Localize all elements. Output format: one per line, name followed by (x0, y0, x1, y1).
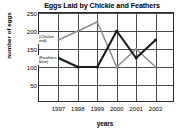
y-tick-label: 50 (30, 82, 37, 89)
data-point-chickie (96, 21, 98, 23)
data-point-chickie (77, 30, 79, 32)
annot-chickie-line2: red) (39, 39, 54, 44)
x-tick-label: 2001 (129, 105, 143, 112)
data-point-feathers (76, 66, 79, 69)
data-point-feathers (135, 57, 138, 60)
series-line-chickie (58, 22, 155, 67)
data-point-chickie (154, 66, 156, 68)
y-tick-label: 250 (27, 10, 37, 17)
chart-container: Eggs Laid by Chickie and Feathers number… (0, 0, 182, 132)
y-tick-label: 200 (27, 28, 37, 35)
series-annotation-feathers: (Feathers blue) (38, 55, 58, 65)
y-axis-label: number of eggs (5, 6, 12, 66)
data-point-feathers (115, 30, 118, 33)
series-lines (39, 13, 175, 103)
annot-feathers-line2: blue) (39, 60, 57, 65)
x-tick-label: 2002 (149, 105, 163, 112)
y-tick-label: 150 (27, 46, 37, 53)
data-point-feathers (154, 39, 157, 42)
series-annotation-chickie: (Chickie red) (38, 34, 55, 44)
x-axis-label: years (30, 120, 180, 127)
chart-title: Eggs Laid by Chickie and Feathers (24, 1, 180, 10)
series-line-feathers (58, 31, 155, 67)
data-point-feathers (96, 66, 99, 69)
x-tick-label: 2000 (110, 105, 124, 112)
data-point-chickie (135, 48, 137, 50)
x-tick-label: 1998 (71, 105, 85, 112)
x-tick-label: 1999 (91, 105, 105, 112)
plot-area: 50100150200250 199719981999200020012002 … (38, 12, 174, 102)
data-point-chickie (116, 66, 118, 68)
x-tick-label: 1997 (52, 105, 66, 112)
data-point-chickie (57, 39, 59, 41)
y-tick-label: 100 (27, 64, 37, 71)
